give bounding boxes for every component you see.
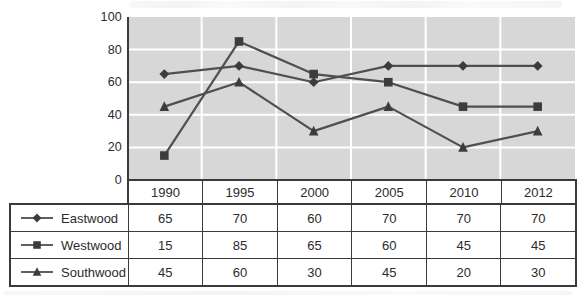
y-axis-tick-label: 80 (84, 43, 122, 57)
series-name-label: Southwood (61, 265, 126, 280)
legend-diamond-icon (33, 214, 42, 223)
value-cell: 20 (427, 259, 501, 287)
table-row: Westwood158565604545 (10, 232, 576, 259)
x-axis-header-row: 199019952000200520102012 (127, 179, 577, 205)
value-cell: 65 (128, 204, 202, 232)
value-cell: 45 (427, 232, 501, 259)
value-cell: 70 (352, 204, 427, 232)
year-header-cell: 2005 (352, 180, 427, 204)
line-chart (127, 17, 575, 180)
value-cell: 60 (277, 204, 351, 232)
y-axis-tick-label: 100 (84, 10, 122, 24)
value-cell: 60 (352, 232, 427, 259)
data-point-square-icon (459, 102, 468, 111)
legend-square-swatch-icon (20, 239, 54, 251)
scan-artifact-bottom (4, 291, 572, 295)
y-axis-tick-label: 40 (84, 108, 122, 122)
value-cell: 45 (352, 259, 427, 287)
table-row: Eastwood657060707070 (10, 204, 576, 232)
chart-with-table-widget: 100806040200 199019952000200520102012 Ea… (0, 0, 588, 297)
data-point-square-icon (309, 70, 318, 79)
y-axis-tick-label: 60 (84, 75, 122, 89)
legend-diamond-swatch-icon (20, 212, 54, 224)
data-point-square-icon (160, 151, 169, 160)
legend-item-westwood: Westwood (10, 232, 128, 259)
year-header-cell: 2010 (427, 180, 502, 204)
value-cell: 70 (501, 204, 576, 232)
data-point-square-icon (533, 102, 542, 111)
legend-item-southwood: Southwood (10, 259, 128, 287)
series-name-label: Eastwood (61, 211, 118, 226)
value-cell: 30 (501, 259, 576, 287)
y-axis-tick-label: 20 (84, 140, 122, 154)
legend-square-icon (33, 241, 41, 249)
series-name-label: Westwood (61, 238, 121, 253)
year-header-cell: 1995 (203, 180, 278, 204)
value-cell: 15 (128, 232, 202, 259)
value-cell: 70 (427, 204, 501, 232)
value-cell: 60 (202, 259, 277, 287)
year-header-row: 199019952000200520102012 (128, 180, 576, 204)
year-header-cell: 2012 (501, 180, 576, 204)
data-point-square-icon (235, 37, 244, 46)
data-point-square-icon (384, 78, 393, 87)
year-header-cell: 1990 (128, 180, 203, 204)
value-cell: 30 (277, 259, 351, 287)
value-cell: 65 (277, 232, 351, 259)
legend-item-eastwood: Eastwood (10, 204, 128, 232)
value-cell: 85 (202, 232, 277, 259)
value-cell: 70 (202, 204, 277, 232)
table-row: Southwood456030452030 (10, 259, 576, 287)
legend-triangle-swatch-icon (20, 266, 54, 278)
data-table: Eastwood657060707070Westwood158565604545… (9, 203, 577, 287)
year-header-cell: 2000 (277, 180, 352, 204)
plot-area (127, 17, 575, 180)
scan-artifact-top (130, 1, 562, 8)
value-cell: 45 (501, 232, 576, 259)
y-axis-tick-label: 0 (84, 173, 122, 187)
value-cell: 45 (128, 259, 202, 287)
